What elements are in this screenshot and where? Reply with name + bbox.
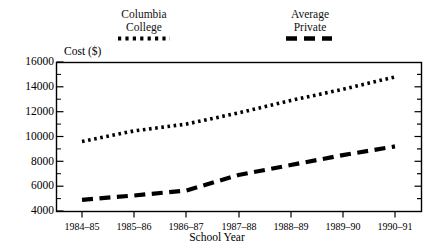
x-axis-title: School Year [0,231,434,243]
x-axis-tick-labels: 1984–85 1985–86 1986–87 1987–88 1988–89 … [0,0,434,252]
chart-figure: Columbia College Average Private Cost ($… [0,0,434,252]
